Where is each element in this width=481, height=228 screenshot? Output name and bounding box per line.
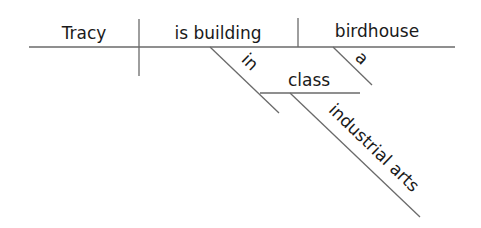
prepositional-object-word: class [288, 70, 330, 90]
compound-modifier-slant [290, 93, 420, 217]
verb-word: is building [174, 23, 261, 43]
object-word: birdhouse [335, 21, 419, 41]
subject-word: Tracy [61, 23, 107, 43]
article-word: a [351, 47, 372, 69]
compound-modifier-word: industrial arts [325, 100, 424, 196]
sentence-diagram: Tracy is building birdhouse a in class i… [0, 0, 481, 228]
preposition-word: in [238, 49, 263, 74]
